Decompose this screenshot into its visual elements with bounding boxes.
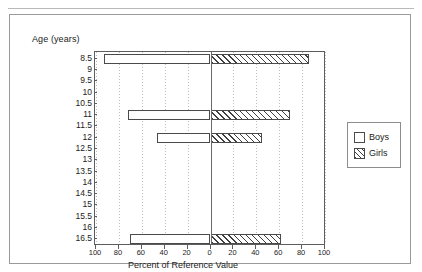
x-tick-mark xyxy=(141,245,142,249)
y-tick-label: 15.5 xyxy=(52,212,92,220)
y-tick-label: 14 xyxy=(52,178,92,186)
bar-girls-age-8.5 xyxy=(211,54,309,64)
bar-boys-age-11 xyxy=(128,110,210,120)
x-tick-label: 40 xyxy=(153,248,175,257)
y-tick-mark xyxy=(94,137,97,138)
legend-label: Boys xyxy=(369,132,389,142)
y-tick-label: 11 xyxy=(52,110,92,118)
y-tick-label: 13.5 xyxy=(52,167,92,175)
plot-area xyxy=(94,51,325,245)
y-tick-label: 13 xyxy=(52,155,92,163)
y-tick-mark xyxy=(94,148,97,149)
y-tick-mark xyxy=(94,103,97,104)
x-tick-mark xyxy=(118,245,119,249)
x-tick-label: 20 xyxy=(221,248,243,257)
gridline xyxy=(279,52,280,244)
x-tick-mark xyxy=(187,245,188,249)
x-tick-label: 40 xyxy=(244,248,266,257)
gridline xyxy=(233,52,234,244)
x-tick-mark xyxy=(278,245,279,249)
y-tick-label: 10 xyxy=(52,88,92,96)
bar-boys-age-12 xyxy=(157,133,211,143)
legend-item-girls: Girls xyxy=(354,145,400,161)
y-tick-label: 15 xyxy=(52,200,92,208)
y-axis-title: Age (years) xyxy=(32,34,80,44)
bar-girls-age-12 xyxy=(211,133,263,143)
y-tick-label: 9 xyxy=(52,65,92,73)
y-tick-label: 8.5 xyxy=(52,54,92,62)
x-tick-mark xyxy=(255,245,256,249)
x-axis-title: Percent of Reference Value xyxy=(128,260,238,270)
bar-girls-age-11 xyxy=(211,110,290,120)
x-tick-label: 80 xyxy=(107,248,129,257)
chart-legend: BoysGirls xyxy=(347,122,401,168)
x-tick-mark xyxy=(324,245,325,249)
gridline xyxy=(325,52,326,244)
empty-square-icon xyxy=(354,132,365,143)
x-tick-label: 80 xyxy=(290,248,312,257)
x-tick-label: 100 xyxy=(313,248,335,257)
x-tick-label: 100 xyxy=(84,248,106,257)
y-tick-label: 12 xyxy=(52,133,92,141)
y-tick-label: 16 xyxy=(52,223,92,231)
y-tick-mark xyxy=(94,238,97,239)
legend-label: Girls xyxy=(369,148,388,158)
y-tick-label: 16.5 xyxy=(52,234,92,242)
gridline xyxy=(165,52,166,244)
y-tick-mark xyxy=(94,193,97,194)
x-tick-label: 60 xyxy=(267,248,289,257)
y-tick-mark xyxy=(94,80,97,81)
gridline xyxy=(119,52,120,244)
y-tick-mark xyxy=(94,182,97,183)
y-tick-label: 9.5 xyxy=(52,76,92,84)
y-tick-label: 14.5 xyxy=(52,189,92,197)
hatched-square-icon xyxy=(354,148,365,159)
y-tick-label: 12.5 xyxy=(52,144,92,152)
y-tick-mark xyxy=(94,204,97,205)
y-tick-label: 10.5 xyxy=(52,99,92,107)
bar-boys-age-16.5 xyxy=(130,234,210,244)
gridline xyxy=(188,52,189,244)
y-tick-mark xyxy=(94,58,97,59)
x-tick-mark xyxy=(301,245,302,249)
y-tick-mark xyxy=(94,159,97,160)
y-tick-mark xyxy=(94,92,97,93)
y-tick-mark xyxy=(94,114,97,115)
y-tick-mark xyxy=(94,125,97,126)
y-tick-mark xyxy=(94,227,97,228)
x-tick-mark xyxy=(232,245,233,249)
zero-axis-line xyxy=(211,52,212,244)
y-tick-mark xyxy=(94,171,97,172)
gridline xyxy=(256,52,257,244)
bar-girls-age-16.5 xyxy=(211,234,282,244)
figure-frame: Age (years) 8.599.51010.51111.51212.5131… xyxy=(9,14,411,264)
page-divider-rule xyxy=(8,8,414,9)
x-tick-mark xyxy=(95,245,96,249)
bar-boys-age-8.5 xyxy=(104,54,210,64)
gridline xyxy=(302,52,303,244)
x-tick-label: 60 xyxy=(130,248,152,257)
legend-item-boys: Boys xyxy=(354,129,400,145)
x-tick-label: 0 xyxy=(199,248,221,257)
y-tick-mark xyxy=(94,216,97,217)
y-tick-label: 11.5 xyxy=(52,121,92,129)
x-tick-mark xyxy=(164,245,165,249)
gridline xyxy=(142,52,143,244)
x-tick-label: 20 xyxy=(176,248,198,257)
x-tick-mark xyxy=(210,245,211,249)
y-tick-mark xyxy=(94,69,97,70)
